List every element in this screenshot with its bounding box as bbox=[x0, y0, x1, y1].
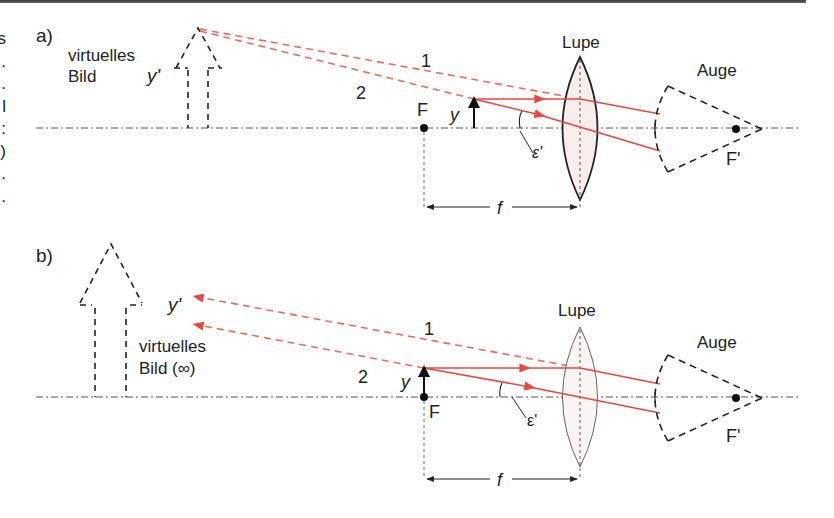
magnifier-diagram: a) virtuelles Bild y' 1 2 Lupe bbox=[0, 0, 834, 518]
angle-arc bbox=[519, 111, 522, 128]
focal-point-label: F bbox=[429, 402, 440, 422]
angle-leader bbox=[512, 397, 526, 418]
ray-2-segment bbox=[474, 99, 540, 115]
angle-label: ε' bbox=[532, 144, 543, 161]
eye-icon bbox=[655, 86, 762, 172]
eye-label: Auge bbox=[697, 333, 737, 352]
panel-b-label: b) bbox=[36, 245, 53, 266]
focal-point-dot bbox=[420, 393, 428, 401]
eye-label: Auge bbox=[697, 61, 737, 80]
ray-2-virtual bbox=[200, 31, 474, 99]
ray-1-virtual bbox=[200, 29, 580, 99]
image-height-label: y' bbox=[166, 294, 183, 315]
object-height-label: y bbox=[399, 372, 411, 392]
panel-b: b) y' virtuelles Bild (∞) 1 2 Lupe bbox=[36, 244, 800, 490]
virtual-image-label: virtuelles bbox=[139, 337, 206, 356]
ray-2-segment bbox=[424, 368, 530, 387]
virtual-image-arrow bbox=[174, 28, 222, 128]
ray-2-virtual bbox=[198, 325, 424, 368]
image-height-label: y' bbox=[145, 65, 162, 86]
panel-a-label: a) bbox=[36, 25, 53, 46]
ray-1-label: 1 bbox=[424, 319, 434, 339]
lens-label: Lupe bbox=[562, 33, 600, 52]
eye-focal-dot bbox=[732, 125, 740, 133]
eye-focal-label: F' bbox=[726, 426, 740, 446]
virtual-image-label: Bild bbox=[68, 67, 96, 86]
object-height-label: y bbox=[448, 105, 460, 125]
virtual-image-label: virtuelles bbox=[68, 46, 135, 65]
eye-icon bbox=[655, 355, 762, 441]
eye-focal-label: F' bbox=[726, 149, 740, 169]
ray-1-label: 1 bbox=[421, 51, 431, 71]
ray-2-label: 2 bbox=[358, 367, 368, 387]
ray-2-label: 2 bbox=[356, 83, 366, 103]
panel-a: a) virtuelles Bild y' 1 2 Lupe bbox=[36, 25, 800, 218]
focal-point-label: F bbox=[417, 100, 428, 120]
angle-label: ε' bbox=[527, 412, 537, 429]
eye-focal-dot bbox=[732, 394, 740, 402]
ray-2-through-center bbox=[538, 115, 660, 152]
focal-point-dot bbox=[420, 124, 428, 132]
ray-1-virtual bbox=[198, 297, 580, 368]
virtual-image-label: Bild (∞) bbox=[139, 359, 196, 378]
lens-label: Lupe bbox=[558, 301, 596, 320]
virtual-image-arrow bbox=[80, 244, 142, 397]
angle-arc bbox=[500, 383, 502, 397]
